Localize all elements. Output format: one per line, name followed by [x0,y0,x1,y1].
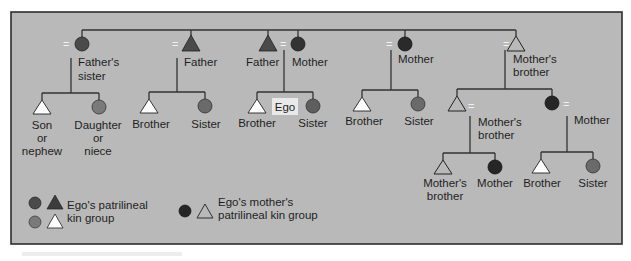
legend-black-circle-icon [179,205,191,217]
daughter-circle-icon [92,100,106,114]
daughter-label-2: or [93,132,103,144]
mbs-daughter-label: Mother [477,177,513,189]
ego-label: Ego [275,101,295,113]
mbd-son-label: Brother [523,177,561,189]
fathers-sister-label: Father's [78,56,119,68]
bleed-through-smudge [22,252,182,256]
son-label-3: nephew [22,145,63,157]
mother-right-circle-icon [398,37,412,51]
father-left-label: Father [184,56,217,68]
mothers-brother-label: Mother's [513,53,557,65]
son-label: Son [32,119,52,131]
ego-sister-circle-icon [306,99,320,113]
daughter-label-3: niece [84,145,112,157]
marriage-sign: = [172,38,178,50]
mbs-daughter-circle-icon [488,160,502,174]
legend-patrilineal-label-2: kin group [67,212,114,224]
marriage-sign: = [386,38,392,50]
legend-medium-circle-icon [29,216,41,228]
m-sister-label: Sister [404,115,434,127]
mb-son-label-2: brother [478,129,515,141]
mbs-son-label-2: brother [427,190,464,202]
brother-label: Brother [132,118,170,130]
ego-brother-label: Brother [238,117,276,129]
marriage-sign: = [63,38,69,50]
mbd-daughter-circle-icon [586,159,600,173]
mb-daughter-circle-icon [545,96,559,110]
mother-ego-circle-icon [291,37,305,51]
marriage-sign: = [280,38,286,50]
mb-son-label: Mother's [478,116,522,128]
sister-label: Sister [191,118,221,130]
mothers-brother-label-2: brother [513,66,550,78]
legend-mothers-patrilineal-label-2: patrilineal kin group [218,209,318,221]
legend-patrilineal-label: Ego's patrilineal [67,199,148,211]
m-sister-circle-icon [411,97,425,111]
sister-circle-icon [198,99,212,113]
legend-mothers-patrilineal-label: Ego's mother's [218,196,294,208]
kinship-diagram: = Father's sister = Father = Father Moth… [0,0,631,261]
mbs-son-label: Mother's [423,177,467,189]
mb-daughter-label: Mother [574,114,610,126]
mother-right-label: Mother [398,53,434,65]
fathers-sister-label-2: sister [78,70,106,82]
marriage-sign: = [468,100,474,112]
ego-sister-label: Sister [298,117,328,129]
mbd-daughter-label: Sister [578,177,608,189]
mother-ego-label: Mother [292,56,328,68]
fathers-sister-circle-icon [75,37,89,51]
marriage-sign: = [563,98,569,110]
m-brother-label: Brother [345,115,383,127]
legend-dark-circle-icon [29,197,41,209]
daughter-label: Daughter [74,119,121,131]
father-ego-label: Father [246,56,279,68]
son-label-2: or [37,132,47,144]
